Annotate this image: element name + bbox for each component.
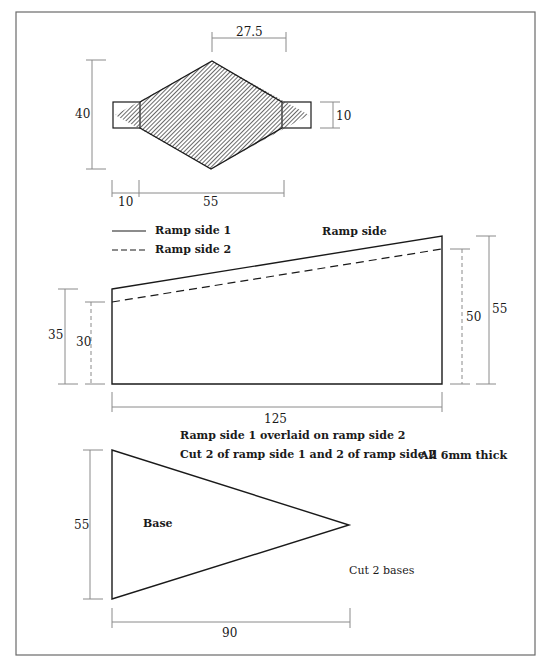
dim-label-ramp-125: 125 [264, 413, 287, 425]
base-cut-note: Cut 2 bases [349, 565, 414, 576]
dim-label-40: 40 [75, 108, 90, 120]
dim-label-base-90: 90 [222, 627, 237, 639]
ramp-cut-note: Cut 2 of ramp side 1 and 2 of ramp side … [180, 449, 436, 460]
dim-label-tab-length: 10 [118, 196, 133, 208]
hatched-diamond [115, 61, 309, 169]
dim-label-ramp-55: 55 [492, 303, 507, 315]
ramp-side-2-top-edge [112, 249, 442, 302]
ramp-side-part [112, 236, 442, 384]
legend-lines [112, 231, 146, 250]
diamond-part [113, 61, 311, 169]
ramp-overlay-note: Ramp side 1 overlaid on ramp side 2 [180, 430, 405, 441]
dim-label-ramp-30: 30 [76, 336, 91, 348]
dim-label-diamond-length: 55 [203, 196, 218, 208]
ramp-side-title: Ramp side [322, 226, 387, 237]
dim-label-tab-height: 10 [336, 110, 351, 122]
dim-label-base-55: 55 [74, 519, 89, 531]
ramp-side-1-outline [112, 236, 442, 384]
drawing-sheet: 27.5 40 10 10 55 Ramp side 1 Ramp side 2… [0, 0, 544, 671]
legend-label-ramp-side-1: Ramp side 1 [155, 225, 231, 236]
thickness-note: All 6mm thick [420, 450, 507, 461]
base-dimensions [83, 450, 350, 628]
dim-label-ramp-50: 50 [466, 311, 481, 323]
dim-label-27-5: 27.5 [236, 26, 263, 38]
base-label: Base [143, 518, 173, 529]
dim-label-ramp-35: 35 [48, 329, 63, 341]
legend-label-ramp-side-2: Ramp side 2 [155, 244, 231, 255]
